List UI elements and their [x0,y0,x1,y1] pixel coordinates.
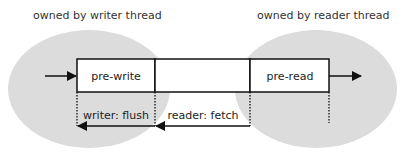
cell-pre-read-label: pre-read [267,70,314,83]
reader-region-label: owned by reader thread [257,9,390,22]
reader-fetch-label: reader: fetch [167,109,238,122]
buffer-ownership-diagram: owned by writer thread owned by reader t… [0,0,404,152]
cell-middle [155,59,250,92]
cell-pre-write-label: pre-write [91,70,141,83]
buffer: pre-write pre-read [77,59,329,92]
writer-flush-label: writer: flush [83,109,149,122]
writer-region-label: owned by writer thread [33,9,162,22]
